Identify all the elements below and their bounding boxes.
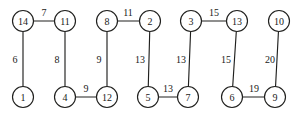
- graph-node[interactable]: 3: [181, 11, 202, 32]
- edge-weight-label: 19: [249, 83, 259, 94]
- graph-node[interactable]: 8: [97, 11, 118, 32]
- graph-edge: [276, 31, 279, 86]
- graph-edge: [148, 32, 149, 87]
- graph-node[interactable]: 1: [13, 87, 34, 108]
- graph-node[interactable]: 10: [269, 11, 290, 32]
- edge-weight-label: 15: [221, 54, 231, 65]
- graph-node[interactable]: 2: [140, 11, 161, 32]
- edge-weight-label: 11: [123, 7, 133, 18]
- graph-edge: [233, 31, 237, 86]
- graph-node[interactable]: 11: [55, 11, 76, 32]
- node-label: 11: [60, 16, 70, 27]
- graph-figure: 768119913151313152019 141182313101412576…: [0, 0, 301, 114]
- edge-weight-label: 13: [135, 54, 145, 65]
- node-label: 2: [148, 16, 153, 27]
- node-label: 5: [146, 92, 151, 103]
- edge-weight-label: 9: [84, 83, 89, 94]
- edge-weight-label: 9: [97, 54, 102, 65]
- node-label: 4: [63, 92, 68, 103]
- graph-canvas: 768119913151313152019 141182313101412576…: [0, 0, 301, 114]
- node-label: 1: [21, 92, 26, 103]
- edge-weight-label: 20: [265, 54, 275, 65]
- edge-weight-label: 8: [55, 54, 60, 65]
- node-label: 7: [186, 92, 191, 103]
- edge-weight-label: 7: [42, 7, 47, 18]
- graph-node[interactable]: 7: [178, 87, 199, 108]
- edge-weight-label: 6: [13, 54, 18, 65]
- graph-node[interactable]: 13: [227, 11, 248, 32]
- node-label: 13: [232, 16, 242, 27]
- node-label: 3: [189, 16, 194, 27]
- node-label: 10: [274, 16, 284, 27]
- graph-node[interactable]: 14: [13, 11, 34, 32]
- graph-node[interactable]: 4: [55, 87, 76, 108]
- graph-node[interactable]: 6: [222, 87, 243, 108]
- node-label: 6: [230, 92, 235, 103]
- edge-weight-label: 13: [176, 54, 186, 65]
- graph-node[interactable]: 5: [138, 87, 159, 108]
- edges-layer: [23, 21, 278, 97]
- graph-edge: [188, 31, 190, 86]
- edge-weight-label: 15: [209, 7, 219, 18]
- node-label: 14: [18, 16, 28, 27]
- node-label: 9: [273, 92, 278, 103]
- edge-weight-label: 13: [163, 83, 173, 94]
- graph-node[interactable]: 12: [97, 87, 118, 108]
- node-label: 12: [102, 92, 112, 103]
- graph-node[interactable]: 9: [265, 87, 286, 108]
- node-label: 8: [105, 16, 110, 27]
